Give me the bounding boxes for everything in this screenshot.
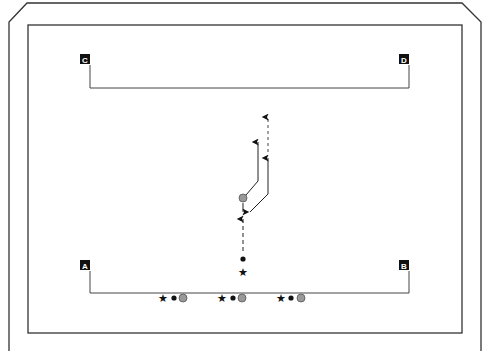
top-field-line	[90, 65, 409, 88]
inner-frame	[28, 25, 462, 333]
label-a-text: A	[82, 262, 88, 271]
defender-cone-icon	[239, 194, 247, 202]
drill-diagram: C D A B ★ ★ ★ ★	[0, 0, 485, 351]
player-group-left: ★	[158, 292, 187, 305]
label-b-text: B	[401, 262, 407, 271]
star-icon: ★	[238, 266, 248, 279]
label-b: B	[399, 260, 409, 271]
player-group-right: ★	[276, 292, 305, 305]
player-group-center: ★	[217, 292, 246, 305]
label-c-text: C	[82, 56, 88, 65]
star-icon: ★	[158, 292, 168, 305]
dot-icon	[171, 295, 176, 300]
dot-icon	[288, 295, 293, 300]
cone-icon	[179, 294, 187, 302]
solid-route-right	[250, 158, 268, 212]
bottom-field-line	[90, 271, 409, 293]
cone-icon	[297, 294, 305, 302]
label-d-text: D	[401, 56, 407, 65]
label-d: D	[399, 54, 409, 65]
dot-icon	[230, 295, 235, 300]
label-a: A	[80, 260, 90, 271]
solid-route-left	[246, 142, 258, 195]
cone-icon	[238, 294, 246, 302]
star-icon: ★	[276, 292, 286, 305]
star-icon: ★	[217, 292, 227, 305]
ball-dot-icon	[240, 256, 245, 261]
label-c: C	[80, 54, 90, 65]
